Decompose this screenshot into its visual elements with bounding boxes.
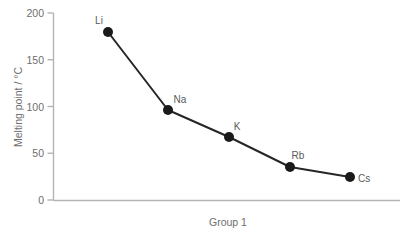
data-point-cs[interactable]	[345, 172, 355, 182]
data-line	[108, 32, 350, 177]
y-axis-title: Melting point / °C	[12, 67, 24, 147]
melting-point-chart: 200 150 100 50 0 Melting point / °C Grou…	[0, 0, 412, 240]
y-tick-label-100: 100	[26, 101, 44, 113]
x-axis-title: Group 1	[209, 216, 247, 228]
data-point-rb[interactable]	[285, 162, 295, 172]
data-point-label-k: K	[234, 121, 241, 132]
y-tick-label-150: 150	[26, 54, 44, 66]
y-tick-label-50: 50	[32, 147, 44, 159]
data-point-li[interactable]	[103, 27, 113, 37]
y-tick-label-0: 0	[38, 194, 44, 206]
chart-svg: 200 150 100 50 0 Melting point / °C Grou…	[0, 0, 412, 240]
y-tick-label-200: 200	[26, 7, 44, 19]
data-point-k[interactable]	[224, 132, 234, 142]
data-point-label-na: Na	[174, 94, 187, 105]
data-point-na[interactable]	[163, 105, 173, 115]
data-point-label-cs: Cs	[358, 173, 370, 184]
data-point-label-rb: Rb	[292, 150, 305, 161]
data-point-label-li: Li	[95, 15, 103, 26]
